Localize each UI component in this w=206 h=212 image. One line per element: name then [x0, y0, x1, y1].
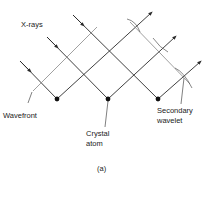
crystal-atom-label-line2: atom — [86, 139, 103, 148]
wavefront-label: Wavefront — [3, 111, 37, 120]
outgoing-ray-3 — [158, 62, 200, 99]
wavefront-leader — [28, 92, 32, 103]
crystal-atom-2 — [106, 97, 111, 102]
crystal-atom-label-line1: Crystal — [86, 129, 109, 138]
secondary-wavelet-leader — [181, 78, 184, 104]
crystal-atom-leader — [105, 101, 108, 127]
crystal-atom-1 — [55, 97, 60, 102]
figure-caption: (a) — [97, 164, 106, 173]
secondary-wavelet-label-line2: wavelet — [157, 116, 182, 125]
incoming-ray-3 — [73, 15, 158, 99]
crystal-atom-3 — [156, 97, 161, 102]
xrays-label: X-rays — [21, 20, 43, 29]
wavefront-line — [33, 27, 97, 91]
outgoing-ray-2 — [108, 37, 175, 99]
secondary-wavelet-label-line1: Secondary — [157, 106, 193, 115]
secondary-wavefront-line — [130, 22, 190, 84]
